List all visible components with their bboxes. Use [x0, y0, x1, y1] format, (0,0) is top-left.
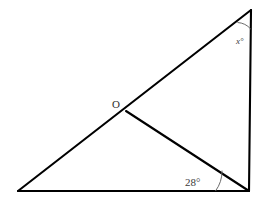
apex-angle-arc — [238, 23, 251, 30]
triangle-hypotenuse-edge — [18, 10, 251, 191]
geometry-figure: x° 28° O — [0, 0, 268, 208]
geometry-canvas: x° 28° O — [0, 0, 268, 208]
triangle-vertical-edge — [249, 10, 251, 191]
point-o-label: O — [112, 98, 120, 110]
angle-28-label: 28° — [185, 176, 200, 188]
angle-x-label: x° — [235, 36, 244, 46]
